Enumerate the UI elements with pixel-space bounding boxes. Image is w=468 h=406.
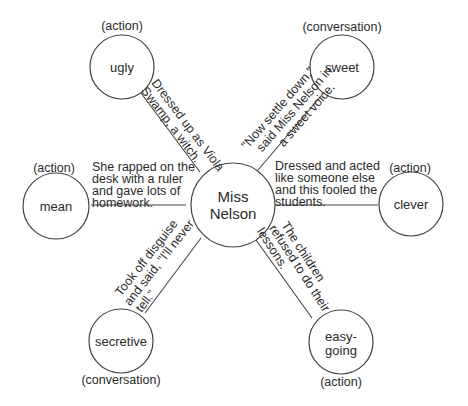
evidence-mean: She rapped on the desk with a ruler and … xyxy=(92,160,195,210)
svg-text:homework.: homework. xyxy=(92,196,153,210)
trait-label: secretive xyxy=(95,334,147,349)
evidence-clever: Dressed and acted like someone else and … xyxy=(275,159,380,209)
trait-type-label: (conversation) xyxy=(302,20,381,34)
evidence-easy-going: The children refused to do their lessons… xyxy=(254,212,343,321)
trait-type-label: (action) xyxy=(101,19,143,33)
trait-type-label: (conversation) xyxy=(81,373,160,387)
trait-label-line1: easy- xyxy=(325,329,357,344)
trait-node-secretive: secretive (conversation) xyxy=(81,309,160,387)
trait-label: mean xyxy=(40,199,73,214)
trait-label-line2: going xyxy=(325,343,357,358)
trait-node-mean: (action) mean xyxy=(23,161,89,239)
trait-type-label: (action) xyxy=(320,375,362,389)
character-web-diagram: Miss Nelson (action) ugly Dressed up as … xyxy=(0,0,468,406)
svg-text:students.: students. xyxy=(275,195,326,209)
evidence-sweet: "Now settle down," said Miss Nelson in a… xyxy=(239,55,345,169)
trait-node-clever: (action) clever xyxy=(379,161,443,236)
center-label-line2: Nelson xyxy=(210,205,257,222)
trait-node-easy-going: easy- going (action) xyxy=(309,310,373,389)
trait-label: clever xyxy=(394,197,429,212)
evidence-secretive: Took off disguise and said, "I'll never … xyxy=(111,209,207,316)
trait-label: ugly xyxy=(110,60,134,75)
center-label-line1: Miss xyxy=(218,188,249,205)
